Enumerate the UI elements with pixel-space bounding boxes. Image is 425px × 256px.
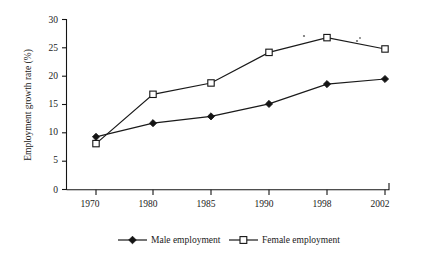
filled-diamond-icon xyxy=(92,133,99,140)
chart-figure: Employment growth rate (%) 30 25 20 15 1… xyxy=(0,0,425,256)
y-tick-label-5: 5 xyxy=(53,155,58,165)
x-tick-label-1985: 1985 xyxy=(197,199,216,209)
y-tick-label-25: 25 xyxy=(49,43,59,53)
filled-diamond-icon xyxy=(265,100,272,107)
open-square-icon xyxy=(266,49,272,55)
open-square-icon xyxy=(93,140,99,146)
x-axis-line xyxy=(67,183,390,190)
scan-speck-icon xyxy=(359,37,361,39)
x-tick-label-1970: 1970 xyxy=(81,199,100,209)
open-square-icon xyxy=(208,80,214,86)
employment-growth-line-chart: Employment growth rate (%) 30 25 20 15 1… xyxy=(0,0,425,256)
legend-label-female: Female employment xyxy=(262,235,340,245)
open-square-icon xyxy=(382,46,388,52)
y-tick-label-15: 15 xyxy=(49,99,59,109)
series-female-employment xyxy=(93,34,388,146)
filled-diamond-icon xyxy=(129,236,137,244)
open-square-icon xyxy=(324,34,330,40)
filled-diamond-icon xyxy=(149,120,156,127)
y-tick-label-30: 30 xyxy=(49,15,59,25)
chart-legend: Male employment Female employment xyxy=(118,235,340,245)
open-square-icon xyxy=(240,237,247,244)
x-tick-label-2002: 2002 xyxy=(371,199,390,209)
y-tick-label-10: 10 xyxy=(49,127,59,137)
y-tick-label-0: 0 xyxy=(53,185,58,195)
scan-speck-icon xyxy=(356,40,358,42)
filled-diamond-icon xyxy=(323,81,330,88)
x-tick-label-1998: 1998 xyxy=(313,199,332,209)
legend-label-male: Male employment xyxy=(151,235,221,245)
y-axis-title: Employment growth rate (%) xyxy=(23,49,34,161)
y-tick-label-20: 20 xyxy=(49,71,59,81)
x-tick-label-1980: 1980 xyxy=(139,199,158,209)
filled-diamond-icon xyxy=(207,113,214,120)
x-tick-label-1990: 1990 xyxy=(255,199,274,209)
filled-diamond-icon xyxy=(381,75,388,82)
male-employment-line xyxy=(96,79,385,137)
female-employment-line xyxy=(96,38,385,144)
scan-speck-icon xyxy=(303,35,305,37)
open-square-icon xyxy=(150,91,156,97)
